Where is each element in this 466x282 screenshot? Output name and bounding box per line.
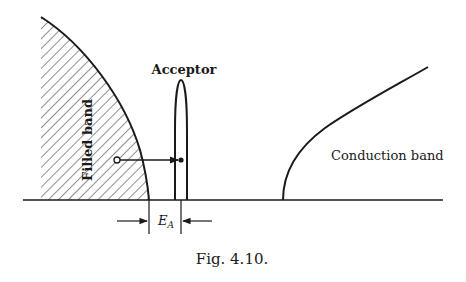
energy-gap-label: EA — [157, 213, 175, 230]
acceptor-peak — [175, 80, 187, 200]
acceptor-label: Acceptor — [151, 62, 217, 77]
conduction-band-curve — [283, 67, 428, 200]
hole-open-circle — [114, 157, 120, 163]
energy-gap-indicator: EA — [117, 200, 212, 234]
filled-band-label: Filled band — [80, 99, 95, 181]
figure-caption: Fig. 4.10. — [196, 250, 269, 268]
acceptor-level: Acceptor — [151, 62, 217, 200]
filled-band: Filled band — [41, 17, 149, 200]
conduction-band-label: Conduction band — [331, 148, 444, 163]
electron-filled-dot — [178, 157, 183, 162]
filled-band-hatch — [41, 17, 149, 200]
band-diagram: Filled band Acceptor EA Conduction band … — [0, 0, 466, 282]
conduction-band: Conduction band — [283, 67, 444, 200]
